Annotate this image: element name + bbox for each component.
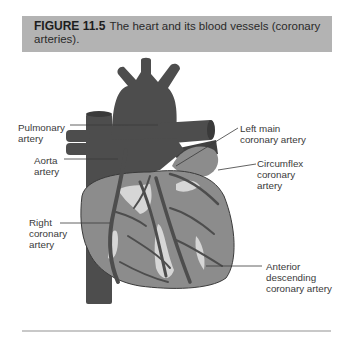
label-line: Left main <box>240 123 306 134</box>
label-line: Anterior <box>266 261 332 272</box>
label-line: Circumflex <box>257 158 303 169</box>
label-line: artery <box>257 180 303 191</box>
label-right-coronary-artery: Right coronary artery <box>29 217 67 250</box>
label-line: descending <box>266 272 332 283</box>
leader-circumflex-coronary-artery <box>218 164 256 170</box>
label-aorta-artery: Aorta artery <box>34 155 59 177</box>
label-left-main-coronary-artery: Left main coronary artery <box>240 123 306 145</box>
label-line: artery <box>18 133 65 144</box>
label-line: coronary artery <box>240 134 306 145</box>
label-line: coronary <box>29 228 67 239</box>
label-line: coronary <box>257 169 303 180</box>
label-circumflex-coronary-artery: Circumflex coronary artery <box>257 158 303 191</box>
label-line: artery <box>29 239 67 250</box>
label-line: Aorta <box>34 155 59 166</box>
label-pulmonary-artery: Pulmonary artery <box>18 122 65 144</box>
label-line: Pulmonary <box>18 122 65 133</box>
label-anterior-descending-coronary-artery: Anterior descending coronary artery <box>266 261 332 294</box>
label-line: Right <box>29 217 67 228</box>
bottom-rule <box>22 330 331 332</box>
label-line: artery <box>34 166 59 177</box>
label-line: coronary artery <box>266 283 332 294</box>
